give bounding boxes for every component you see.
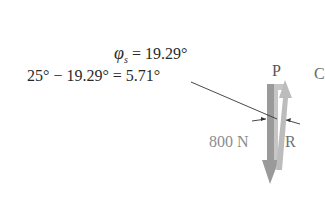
r-resultant-vector [276, 80, 292, 170]
partial-c-label: C [314, 66, 325, 82]
force-800n-label: 800 N [209, 134, 249, 150]
r-label: R [285, 134, 296, 150]
leader-line [191, 82, 277, 119]
p-label: P [272, 63, 281, 79]
